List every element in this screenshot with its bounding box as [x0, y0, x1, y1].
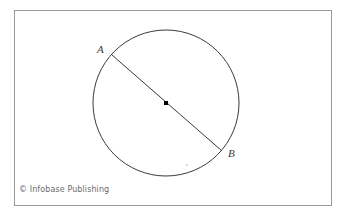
scan-speck-artifact	[186, 164, 188, 166]
point-label-b: B	[228, 148, 235, 159]
center-point-dot	[164, 101, 168, 105]
figure-page: A B © Infobase Publishing	[0, 0, 348, 218]
copyright-credit: © Infobase Publishing	[19, 185, 109, 195]
point-label-a: A	[97, 44, 104, 55]
